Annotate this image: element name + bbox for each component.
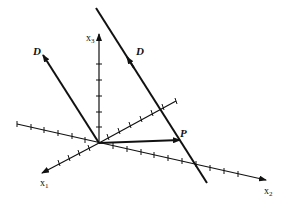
line-through-p — [96, 8, 207, 183]
direction-vector-d — [43, 55, 99, 143]
x3-axis-label: x3 — [86, 33, 95, 45]
position-vector-p — [99, 140, 180, 143]
line-d-label: D — [136, 46, 144, 57]
diagram-3d-line: x3 x1 x2 D D P — [0, 0, 285, 205]
x1-axis-negative — [99, 101, 176, 143]
x2-axis-label: x2 — [264, 186, 273, 198]
line-direction-arrow — [127, 57, 134, 68]
diagram-canvas — [0, 0, 285, 205]
point-p-label: P — [180, 128, 187, 139]
x1-axis-label: x1 — [40, 178, 49, 190]
direction-d-label: D — [33, 46, 41, 57]
x1-axis — [42, 143, 99, 173]
